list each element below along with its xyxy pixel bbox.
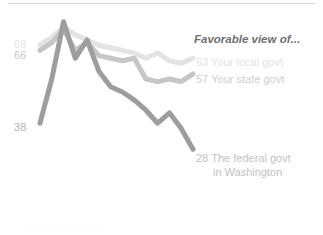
start-label-state-govt: 66: [14, 50, 27, 61]
end-label-state-govt: 57Your state govt: [196, 73, 284, 87]
end-value-local-govt: 63: [196, 56, 208, 68]
end-value-state-govt: 57: [196, 73, 208, 85]
end-value-federal-govt: 28: [196, 152, 208, 164]
series-line-state-govt: [40, 30, 193, 82]
start-label-federal-govt: 38: [14, 122, 27, 133]
end-name-federal-govt: The federal govt: [211, 152, 291, 164]
end-name-federal-govt-line2: in Washington: [196, 166, 291, 180]
legend-title: Favorable view of...: [194, 34, 300, 46]
chart-container: 68 66 38 Favorable view of... 63Your loc…: [0, 0, 323, 235]
end-label-federal-govt: 28The federal govt in Washington: [196, 152, 291, 180]
footer-source-note: Survey conducted April 5-11, 2018.: [27, 226, 104, 231]
end-name-local-govt: Your local govt: [211, 56, 283, 68]
end-label-local-govt: 63Your local govt: [196, 56, 283, 70]
series-line-federal-govt: [40, 22, 193, 149]
end-name-state-govt: Your state govt: [211, 73, 284, 85]
